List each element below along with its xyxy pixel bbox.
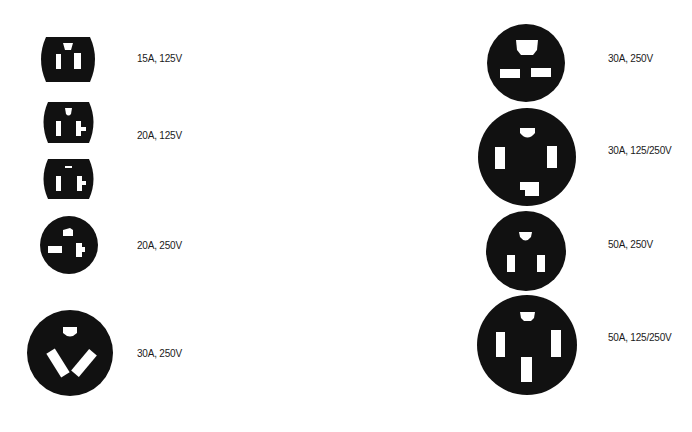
- label-30a-125-250v: 30A, 125/250V: [608, 145, 672, 156]
- outlet-20a-250v-icon: [40, 216, 98, 274]
- outlet-30a-125-250v-icon: [478, 108, 576, 206]
- outlet-30a-250v-left-icon: [27, 310, 113, 396]
- label-30a-250v-left: 30A, 250V: [137, 348, 182, 359]
- label-30a-250v-right: 30A, 250V: [608, 53, 653, 64]
- outlet-30a-250v-right-icon: [487, 24, 565, 102]
- label-50a-250v: 50A, 250V: [608, 239, 653, 250]
- receptacle-diagram: 15A, 125V 20A, 125V 20A, 250V 30A, 250V …: [0, 0, 692, 432]
- label-20a-125v: 20A, 125V: [137, 130, 182, 141]
- outlet-50a-125-250v-icon: [477, 295, 577, 395]
- label-15a-125v: 15A, 125V: [137, 53, 182, 64]
- label-50a-125-250v: 50A, 125/250V: [608, 332, 672, 343]
- outlet-50a-250v-icon: [486, 211, 566, 291]
- outlet-20a-125v-alt-icon: [44, 159, 94, 199]
- label-20a-250v: 20A, 250V: [137, 240, 182, 251]
- outlet-20a-125v-icon: [44, 102, 94, 143]
- outlet-15a-125v-icon: [41, 37, 95, 82]
